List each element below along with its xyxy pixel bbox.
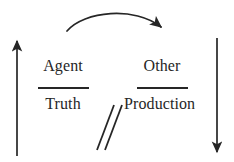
left-fraction-denominator: Truth — [33, 95, 93, 113]
double-slash-mark-stroke-1 — [97, 105, 114, 150]
top-curved-arrow — [67, 13, 161, 31]
right-fraction-denominator: Production — [124, 95, 210, 113]
double-slash-mark-stroke-2 — [105, 105, 122, 150]
diagram-canvas: Agent Truth Other Production — [0, 0, 234, 162]
left-fraction-numerator: Agent — [33, 57, 93, 75]
diagram-vector-layer — [0, 0, 234, 162]
right-fraction-numerator: Other — [132, 57, 192, 75]
